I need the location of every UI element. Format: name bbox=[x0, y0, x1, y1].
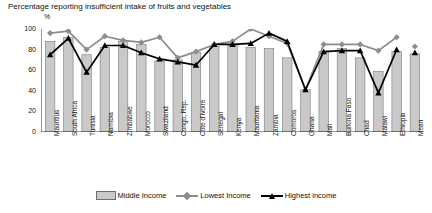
marker-diamond-0 bbox=[47, 30, 53, 36]
y-tick-60: 60 bbox=[14, 66, 36, 73]
x-label-8: Côte d'Ivoire bbox=[199, 100, 206, 136]
legend-label-highest-income: Highest income bbox=[285, 191, 337, 200]
x-label-16: Burkina Faso bbox=[345, 98, 352, 136]
x-label-5: Morocco bbox=[144, 111, 151, 136]
legend-swatch-bar-icon bbox=[96, 191, 116, 200]
marker-triangle-12 bbox=[266, 30, 272, 36]
x-label-7: Congo, Rep. bbox=[180, 100, 187, 137]
x-label-15: Mali bbox=[326, 124, 333, 136]
x-label-2: Tunisia bbox=[89, 115, 96, 136]
legend-line-triangle-icon bbox=[261, 192, 283, 200]
marker-diamond-16 bbox=[339, 41, 345, 47]
marker-diamond-17 bbox=[357, 41, 363, 47]
chart-svg bbox=[41, 29, 424, 132]
marker-diamond-20 bbox=[412, 43, 418, 49]
chart-container: Percentage reporting insufficient intake… bbox=[0, 0, 432, 213]
x-label-17: Chad bbox=[363, 120, 370, 136]
y-tick-100: 100 bbox=[14, 25, 36, 32]
legend-label-middle-income: Middle Income bbox=[118, 191, 167, 200]
chart-legend: Middle Income Lowest Income Highest inco… bbox=[0, 191, 432, 200]
x-label-13: Comoros bbox=[290, 110, 297, 136]
y-tick-20: 20 bbox=[14, 107, 36, 114]
x-label-12: Zambia bbox=[272, 114, 279, 136]
marker-diamond-15 bbox=[321, 41, 327, 47]
y-tick-80: 80 bbox=[14, 46, 36, 53]
legend-item-middle-income: Middle Income bbox=[96, 191, 167, 200]
marker-triangle-19 bbox=[393, 46, 399, 52]
x-label-19: Ethiopia bbox=[399, 113, 406, 137]
bar-15 bbox=[319, 52, 328, 132]
plot-area bbox=[41, 29, 424, 132]
y-tick-40: 40 bbox=[14, 87, 36, 94]
y-tick-0: 0 bbox=[14, 128, 36, 135]
y-axis-label: % bbox=[44, 13, 50, 20]
x-label-4: Zimbabwe bbox=[126, 106, 133, 136]
x-label-10: Kenya bbox=[235, 118, 242, 136]
x-label-1: South Africa bbox=[71, 101, 78, 136]
legend-line-diamond-icon bbox=[176, 192, 198, 200]
x-label-9: Senegal bbox=[217, 112, 224, 136]
x-label-14: Ghana bbox=[308, 116, 315, 136]
x-label-3: Namibia bbox=[107, 112, 114, 136]
x-label-11: Mauritania bbox=[253, 106, 260, 136]
x-label-0: Mauritius bbox=[53, 110, 60, 136]
legend-item-lowest-income: Lowest Income bbox=[176, 191, 250, 200]
marker-triangle-20 bbox=[412, 49, 418, 55]
legend-label-lowest-income: Lowest Income bbox=[200, 191, 250, 200]
chart-title: Percentage reporting insufficient intake… bbox=[8, 2, 231, 12]
x-axis-labels: MauritiusSouth AfricaTunisiaNamibiaZimba… bbox=[41, 134, 424, 186]
legend-item-highest-income: Highest income bbox=[261, 191, 337, 200]
x-label-20: Mean bbox=[417, 120, 424, 136]
x-label-6: Swaziland bbox=[162, 106, 169, 136]
x-label-18: Malawi bbox=[381, 116, 388, 136]
